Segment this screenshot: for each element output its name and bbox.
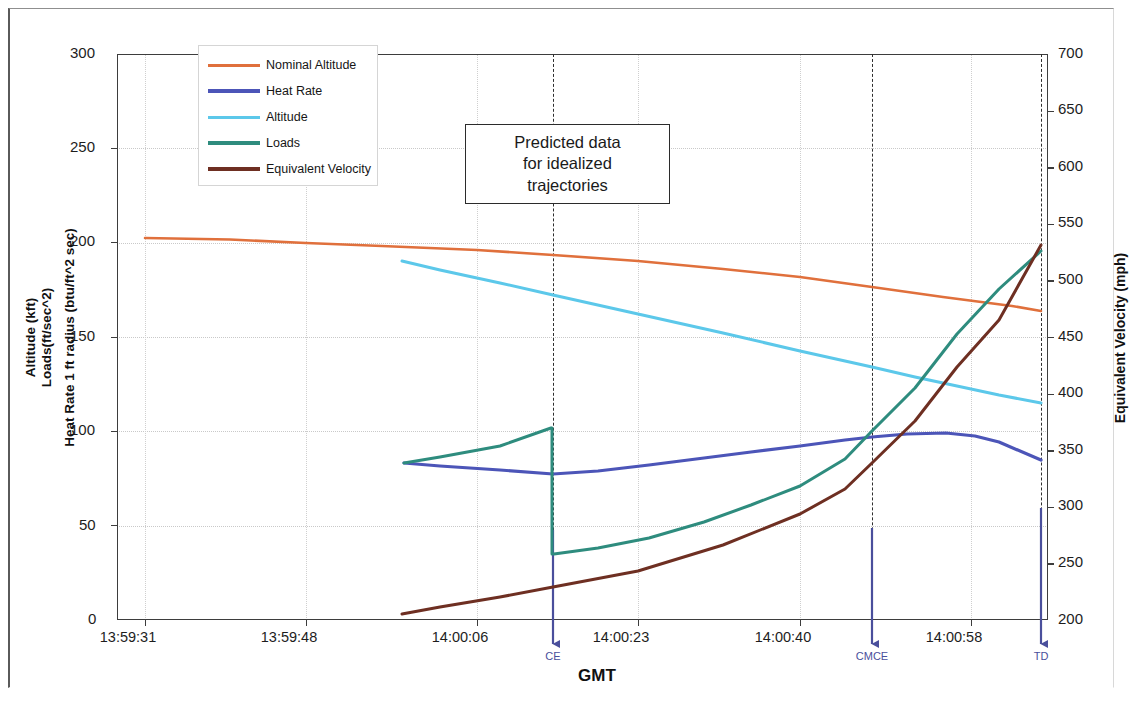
legend-swatch-altitude [208,116,260,119]
x-tickmark-6 [971,620,972,626]
chart-figure: 300 250 200 150 100 50 0 Altitude (kft) … [0,0,1135,719]
x-tick-label-5: 14:00:40 [755,629,811,645]
legend-label-loads: Loads [266,136,300,150]
y-right-tick-650: 650 [1058,100,1083,117]
x-tick-label-3: 14:00:06 [432,629,488,645]
y-axis-left-label-line3: Heat Rate 1 ft radius (btu/ft^2 sec) [62,218,77,458]
legend-item-loads: Loads [199,130,377,156]
y-left-tickmark-50 [111,525,117,526]
event-label-td: TD [1034,650,1049,662]
annotation-line-1: Predicted data [514,132,620,153]
y-right-tick-250: 250 [1058,553,1083,570]
y-right-tick-700: 700 [1058,44,1083,61]
event-dashline-td [1041,54,1042,620]
y-left-tick-50: 50 [79,516,96,533]
y-right-tickmark-600 [1048,167,1054,168]
y-left-tick-0: 0 [88,610,96,627]
y-right-tickmark-550 [1048,224,1054,225]
y-axis-left-label-group: Altitude (kft) Loads(ft/sec^2) Heat Rate… [0,54,74,620]
x-tickmark-2 [306,620,307,626]
event-label-cmce: CMCE [856,650,888,662]
event-label-ce: CE [545,650,560,662]
event-dashline-cmce [872,54,873,620]
x-tick-label-1: 13:59:31 [100,629,156,645]
annotation-line-3: trajectories [527,175,608,196]
legend-item-equivalent-velocity: Equivalent Velocity [199,156,377,182]
y-right-tickmark-650 [1048,111,1054,112]
y-right-tick-600: 600 [1058,157,1083,174]
y-axis-left-label-line2: Loads(ft/sec^2) [39,218,54,458]
y-right-tickmark-450 [1048,337,1054,338]
x-axis-label: GMT [578,666,616,686]
y-left-tickmark-200 [111,242,117,243]
legend-label-altitude: Altitude [266,110,308,124]
y-right-tickmark-350 [1048,450,1054,451]
legend-swatch-nominal-altitude [208,64,260,67]
y-right-tick-200: 200 [1058,610,1083,627]
y-left-tickmark-100 [111,431,117,432]
legend: Nominal Altitude Heat Rate Altitude Load… [198,45,378,186]
y-right-tick-500: 500 [1058,270,1083,287]
x-tickmark-5 [800,620,801,626]
legend-item-heat-rate: Heat Rate [199,78,377,104]
y-right-tickmark-500 [1048,280,1054,281]
x-tick-label-2: 13:59:48 [261,629,317,645]
y-axis-right-label: Equivalent Velocity (mph) [1112,218,1128,458]
y-right-tickmark-250 [1048,563,1054,564]
y-axis-left-label-line1: Altitude (kft) [23,218,38,458]
legend-item-nominal-altitude: Nominal Altitude [199,52,377,78]
legend-swatch-loads [208,141,260,145]
x-tickmark-4 [638,620,639,626]
y-right-tick-450: 450 [1058,327,1083,344]
annotation-callout: Predicted data for idealized trajectorie… [465,124,670,204]
x-tick-label-4: 14:00:23 [593,629,649,645]
annotation-line-2: for idealized [523,153,612,174]
x-tickmark-1 [145,620,146,626]
legend-swatch-heat-rate [208,89,260,93]
legend-swatch-equivalent-velocity [208,167,260,171]
y-right-tickmark-400 [1048,394,1054,395]
y-left-tickmark-250 [111,148,117,149]
y-right-tick-400: 400 [1058,383,1083,400]
legend-label-nominal-altitude: Nominal Altitude [266,58,356,72]
y-right-tickmark-300 [1048,507,1054,508]
y-right-tick-300: 300 [1058,496,1083,513]
legend-item-altitude: Altitude [199,104,377,130]
y-left-tickmark-150 [111,337,117,338]
legend-label-equivalent-velocity: Equivalent Velocity [266,162,371,176]
x-tickmark-3 [477,620,478,626]
y-right-tick-550: 550 [1058,213,1083,230]
y-right-tick-350: 350 [1058,440,1083,457]
x-tick-label-6: 14:00:58 [926,629,982,645]
legend-label-heat-rate: Heat Rate [266,84,322,98]
